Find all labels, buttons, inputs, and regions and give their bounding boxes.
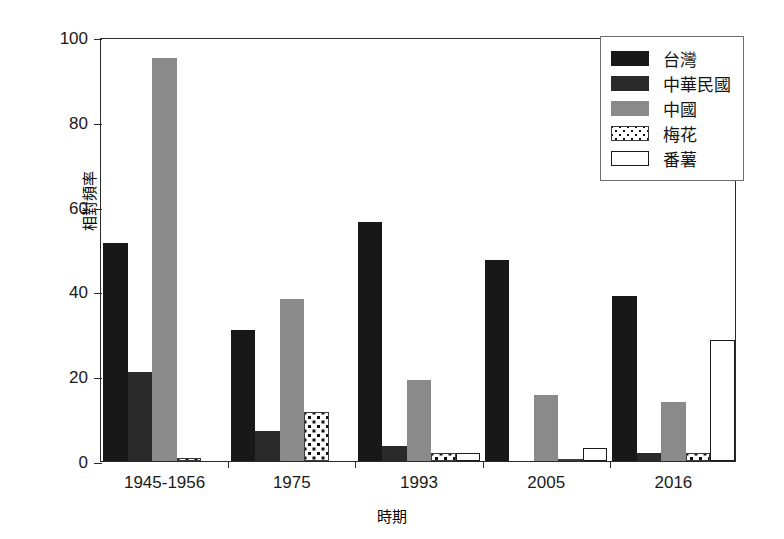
y-tick-label: 60 bbox=[69, 199, 88, 219]
bar bbox=[456, 453, 481, 461]
bar bbox=[231, 330, 256, 461]
y-tick-label: 40 bbox=[69, 283, 88, 303]
y-tick-label: 0 bbox=[79, 453, 88, 473]
legend-swatch-icon bbox=[611, 126, 649, 141]
x-tick-label: 1993 bbox=[400, 473, 438, 493]
x-tick-mark bbox=[610, 461, 611, 468]
bar bbox=[103, 243, 128, 461]
x-tick-label: 1945-1956 bbox=[124, 473, 205, 493]
bar bbox=[280, 299, 305, 461]
legend-swatch-icon bbox=[611, 151, 649, 166]
chart-figure: 相對頻率 時期 020406080100 1945-19561975199320… bbox=[0, 0, 784, 539]
legend-swatch-icon bbox=[611, 51, 649, 66]
y-tick-mark bbox=[94, 293, 102, 294]
chart-legend: 台灣中華民國中國梅花番薯 bbox=[600, 36, 744, 181]
bar bbox=[661, 402, 686, 461]
legend-item[interactable]: 番薯 bbox=[611, 146, 731, 171]
bar bbox=[152, 58, 177, 461]
bar bbox=[304, 412, 329, 461]
legend-item[interactable]: 中國 bbox=[611, 96, 731, 121]
x-tick-mark bbox=[483, 461, 484, 468]
bar bbox=[534, 395, 559, 461]
legend-item[interactable]: 台灣 bbox=[611, 46, 731, 71]
x-axis-label: 時期 bbox=[0, 505, 784, 526]
legend-item[interactable]: 梅花 bbox=[611, 121, 731, 146]
bar bbox=[382, 446, 407, 461]
legend-swatch-icon bbox=[611, 76, 649, 91]
y-tick-mark bbox=[94, 39, 102, 40]
legend-item[interactable]: 中華民國 bbox=[611, 71, 731, 96]
bar bbox=[431, 453, 456, 461]
bar bbox=[407, 380, 432, 461]
bar bbox=[686, 453, 711, 461]
bar bbox=[358, 222, 383, 461]
bar bbox=[177, 458, 202, 461]
bar bbox=[710, 340, 735, 461]
legend-label: 梅花 bbox=[663, 121, 697, 146]
y-tick-label: 20 bbox=[69, 368, 88, 388]
y-tick-label: 80 bbox=[69, 114, 88, 134]
x-tick-mark bbox=[228, 461, 229, 468]
legend-label: 中國 bbox=[663, 96, 697, 121]
legend-label: 中華民國 bbox=[663, 71, 731, 96]
y-tick-mark bbox=[94, 124, 102, 125]
legend-label: 番薯 bbox=[663, 146, 697, 171]
bar bbox=[583, 448, 608, 461]
legend-label: 台灣 bbox=[663, 46, 697, 71]
bar bbox=[485, 260, 510, 461]
y-tick-mark bbox=[94, 463, 102, 464]
bar bbox=[612, 296, 637, 461]
y-tick-mark bbox=[94, 378, 102, 379]
bar bbox=[255, 431, 280, 461]
x-tick-mark bbox=[355, 461, 356, 468]
bar bbox=[558, 459, 583, 461]
bar bbox=[128, 372, 153, 461]
y-tick-label: 100 bbox=[60, 29, 88, 49]
bar bbox=[637, 453, 662, 461]
x-tick-label: 2005 bbox=[527, 473, 565, 493]
x-tick-label: 1975 bbox=[273, 473, 311, 493]
y-tick-mark bbox=[94, 209, 102, 210]
x-tick-label: 2016 bbox=[654, 473, 692, 493]
legend-swatch-icon bbox=[611, 101, 649, 116]
